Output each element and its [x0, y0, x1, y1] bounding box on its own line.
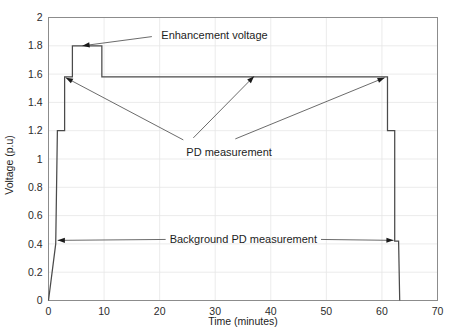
background-pd-measurement-label: Background PD measurement: [170, 233, 317, 245]
x-tick-label: 70: [432, 305, 444, 317]
y-axis-title: Voltage (p.u): [3, 135, 15, 195]
y-tick-label: 0.4: [28, 238, 43, 250]
x-axis-title: Time (minutes): [208, 315, 278, 327]
y-tick-label: 0.8: [28, 181, 43, 193]
chart-background: [0, 0, 461, 336]
x-tick-label: 20: [154, 305, 166, 317]
y-tick-label: 1: [37, 153, 43, 165]
y-tick-label: 1.8: [28, 39, 43, 51]
chart-figure: 00.20.40.60.811.21.41.61.82 010203040506…: [0, 0, 461, 336]
pd-measurement-label: PD measurement: [186, 146, 272, 158]
y-tick-label: 1.6: [28, 68, 43, 80]
x-tick-label: 10: [98, 305, 110, 317]
y-tick-label: 1.4: [28, 96, 43, 108]
y-tick-label: 2: [37, 11, 43, 23]
x-tick-label: 0: [46, 305, 52, 317]
y-tick-label: 0.2: [28, 266, 43, 278]
y-tick-label: 1.2: [28, 124, 43, 136]
y-tick-label: 0.6: [28, 209, 43, 221]
x-tick-label: 50: [321, 305, 333, 317]
enhancement-voltage-label: Enhancement voltage: [161, 29, 267, 41]
x-tick-label: 60: [376, 305, 388, 317]
voltage-time-chart: 00.20.40.60.811.21.41.61.82 010203040506…: [0, 0, 461, 336]
y-tick-label: 0: [37, 294, 43, 306]
